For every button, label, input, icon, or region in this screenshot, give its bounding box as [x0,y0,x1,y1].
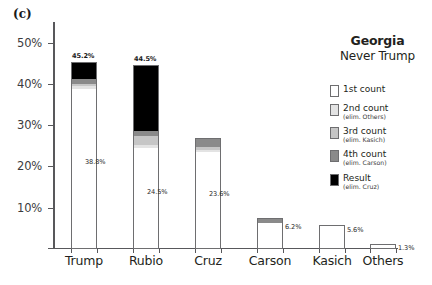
legend-item[interactable]: 1st count [330,85,430,97]
bar-segment [133,131,159,136]
y-tick [48,43,53,44]
legend-item-label: 2nd count [343,104,388,113]
legend-subtitle: Never Trump [330,49,425,63]
legend-item-note: (elim. Carson) [343,160,387,166]
bar-segment [195,150,221,151]
legend: Georgia Never Trump 1st count2nd count(e… [330,33,430,197]
bar-segment [195,147,221,150]
panel-label: (c) [13,7,32,21]
bar-segment [319,225,345,226]
x-label-trump: Trump [65,253,103,268]
bar-segment [257,218,283,223]
bar-first-count-label: 6.2% [285,223,301,231]
bar-trump[interactable] [71,62,97,249]
bar-segment [133,136,159,145]
bar-segment [71,84,97,87]
bar-top-value-label: 44.5% [134,55,156,63]
bar-segment [133,65,159,131]
x-label-kasich: Kasich [312,253,351,268]
bar-segment [319,226,345,249]
x-label-cruz: Cruz [194,253,222,268]
bar-segment [71,86,97,88]
x-label-rubio: Rubio [129,253,163,268]
bar-top-value-label: 45.2% [72,52,94,60]
bar-segment [71,62,97,79]
legend-swatch-icon [330,127,339,139]
y-tick-label: 20% [0,159,42,173]
legend-swatch-icon [330,104,339,116]
legend-item-label: 1st count [343,85,385,94]
bar-segment [195,152,221,249]
y-tick [48,125,53,126]
bar-segment [370,244,396,249]
y-tick [48,84,53,85]
y-tick [48,166,53,167]
bar-first-count-label: 24.5% [147,188,167,196]
bar-kasich[interactable] [319,225,345,249]
legend-item-label: 3rd count [343,127,386,136]
legend-item[interactable]: 4th count(elim. Carson) [330,150,430,166]
legend-item-note: (elim. Cruz) [343,184,379,190]
bar-segment [71,89,97,249]
legend-item-label: 4th count [343,150,387,159]
legend-item-label: Result [343,174,379,183]
bar-first-count-label: 38.8% [85,158,105,166]
legend-item-note: (elim. Kasich) [343,137,386,143]
y-tick-label: 40% [0,77,42,91]
bar-segment [133,148,159,249]
bar-segment [257,223,283,249]
legend-swatch-icon [330,150,339,162]
bar-others[interactable] [370,244,396,249]
bar-carson[interactable] [257,218,283,249]
legend-title: Georgia [330,33,425,48]
y-tick-label: 50% [0,36,42,50]
legend-item[interactable]: Result(elim. Cruz) [330,174,430,190]
legend-swatch-icon [330,85,339,97]
bar-segment [133,145,159,147]
y-tick-label: 30% [0,118,42,132]
y-tick [48,208,53,209]
x-label-others: Others [363,253,404,268]
bar-segment [71,79,97,84]
y-axis-line [53,22,55,249]
bar-segment [195,138,221,148]
y-tick-label: 10% [0,201,42,215]
bar-first-count-label: 1.3% [398,244,414,252]
bar-rubio[interactable] [133,65,159,249]
legend-swatch-icon [330,174,339,186]
legend-item-note: (elim. Others) [343,114,388,120]
legend-item[interactable]: 3rd count(elim. Kasich) [330,127,430,143]
x-label-carson: Carson [249,253,291,268]
legend-item[interactable]: 2nd count(elim. Others) [330,104,430,120]
chart-root: (c) 10%20%30%40%50% 45.2%38.8%44.5%24.5%… [0,0,432,285]
legend-items: 1st count2nd count(elim. Others)3rd coun… [330,85,430,190]
bar-first-count-label: 23.6% [209,190,229,198]
bar-first-count-label: 5.6% [347,226,363,234]
